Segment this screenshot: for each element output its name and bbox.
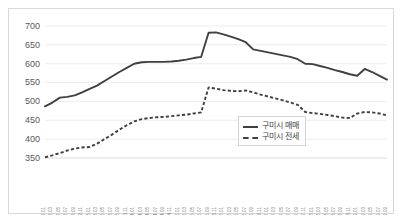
x-tick-label: 2015.05 <box>190 207 195 215</box>
x-tick-label: 2015.03 <box>182 207 187 215</box>
y-tick-label: 400 <box>25 134 40 144</box>
series-line-0 <box>45 32 387 106</box>
x-tick-label: 2012.01 <box>41 207 46 215</box>
x-tick-label: 2012.03 <box>48 207 53 215</box>
y-axis-tick-labels: 700650600550500450400350 <box>25 21 40 163</box>
x-tick-label: 2017.09 <box>294 207 299 215</box>
x-tick-label: 2015.11 <box>212 207 217 215</box>
x-tick-label: 2018.05 <box>324 207 329 215</box>
x-tick-label: 2013.09 <box>115 207 120 215</box>
x-tick-label: 2014.01 <box>130 207 135 215</box>
x-tick-label: 2015.09 <box>205 207 210 215</box>
y-tick-label: 450 <box>25 115 40 125</box>
x-tick-label: 2019.03 <box>361 207 366 215</box>
x-tick-label: 2014.11 <box>167 207 172 215</box>
x-tick-label: 2016.05 <box>234 207 239 215</box>
x-tick-label: 2017.07 <box>286 207 291 215</box>
y-tick-label: 500 <box>25 96 40 106</box>
x-tick-label: 2017.03 <box>271 207 276 215</box>
x-tick-label: 2014.05 <box>145 207 150 215</box>
x-tick-label: 2016.03 <box>227 207 232 215</box>
x-tick-label: 2017.05 <box>279 207 284 215</box>
x-tick-label: 2016.07 <box>242 207 247 215</box>
y-tick-label: 600 <box>25 59 40 69</box>
legend-line-icon-dashed <box>243 132 258 141</box>
x-tick-label: 2019.01 <box>353 207 358 215</box>
x-tick-label: 2012.09 <box>71 207 76 215</box>
x-tick-label: 2013.03 <box>93 207 98 215</box>
x-tick-label: 2017.01 <box>264 207 269 215</box>
x-tick-label: 2014.07 <box>153 207 158 215</box>
x-tick-label: 2013.01 <box>86 207 91 215</box>
x-tick-label: 2016.11 <box>257 207 262 215</box>
x-tick-label: 2013.05 <box>100 207 105 215</box>
x-tick-label: 2013.11 <box>123 207 128 215</box>
chart-legend: 구미시 매매 구미시 전세 <box>238 116 306 146</box>
legend-label-1: 구미시 전세 <box>262 131 299 142</box>
y-tick-label: 550 <box>25 77 40 87</box>
legend-line-icon-solid <box>243 121 258 130</box>
x-tick-label: 2014.09 <box>160 207 165 215</box>
x-tick-label: 2012.11 <box>78 207 83 215</box>
x-tick-label: 2018.09 <box>338 207 343 215</box>
y-tick-label: 350 <box>25 153 40 163</box>
x-tick-label: 2017.11 <box>301 207 306 215</box>
x-axis-tick-labels: 2012.012012.032012.052012.072012.092012.… <box>41 207 388 215</box>
x-tick-label: 2012.07 <box>63 207 68 215</box>
x-tick-label: 2015.07 <box>197 207 202 215</box>
chart-frame: 700650600550500450400350 2012.012012.032… <box>8 8 394 214</box>
y-tick-label: 650 <box>25 40 40 50</box>
gridlines <box>45 26 387 158</box>
x-tick-label: 2016.09 <box>249 207 254 215</box>
y-tick-label: 700 <box>25 21 40 31</box>
x-tick-label: 2018.11 <box>346 207 351 215</box>
line-chart: 700650600550500450400350 2012.012012.032… <box>9 9 395 215</box>
x-tick-label: 2013.07 <box>108 207 113 215</box>
series-line-1 <box>45 87 387 157</box>
x-tick-label: 2018.01 <box>309 207 314 215</box>
legend-item-0[interactable]: 구미시 매매 <box>243 120 299 131</box>
x-tick-label: 2015.01 <box>175 207 180 215</box>
x-tick-label: 2016.01 <box>219 207 224 215</box>
plot-area: 700650600550500450400350 2012.012012.032… <box>9 9 393 213</box>
x-tick-label: 2019.07 <box>376 207 381 215</box>
x-tick-label: 2012.05 <box>56 207 61 215</box>
x-tick-label: 2019.05 <box>368 207 373 215</box>
x-tick-label: 2018.03 <box>316 207 321 215</box>
x-tick-label: 2018.07 <box>331 207 336 215</box>
x-tick-label: 2019.09 <box>383 207 388 215</box>
series-layer <box>45 32 387 157</box>
legend-label-0: 구미시 매매 <box>262 120 299 131</box>
x-tick-label: 2014.03 <box>138 207 143 215</box>
legend-item-1[interactable]: 구미시 전세 <box>243 131 299 142</box>
